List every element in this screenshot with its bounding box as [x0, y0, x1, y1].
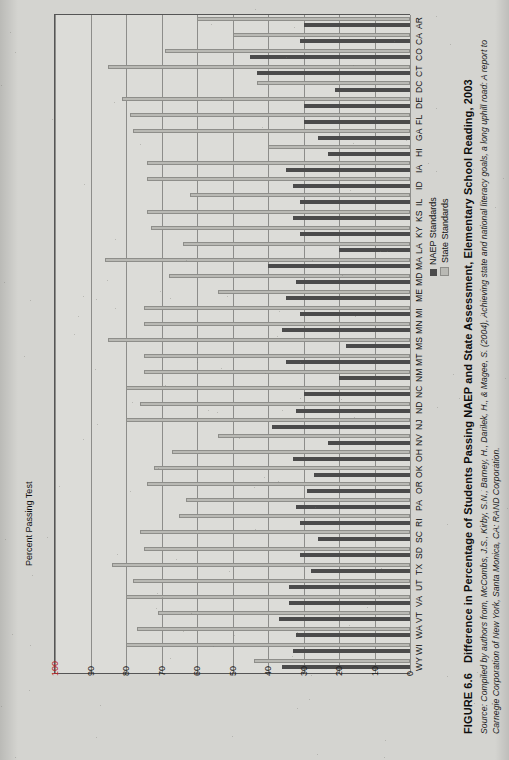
chart-row: [55, 256, 410, 272]
scan-speckle: [183, 631, 184, 632]
category-label: LA: [414, 243, 424, 254]
scan-speckle: [297, 632, 298, 633]
bar-state-standards: [137, 627, 410, 631]
bar-state-standards: [133, 579, 410, 583]
bar-state-standards: [126, 643, 410, 647]
axis-tick-label: 20: [334, 666, 344, 676]
scan-speckle: [255, 529, 256, 530]
chart-row: [55, 31, 410, 47]
scan-speckle: [297, 708, 298, 709]
scan-speckle: [100, 705, 101, 706]
chart-row: [55, 641, 410, 657]
bar-naep-standards: [318, 537, 410, 541]
scan-speckle: [217, 412, 218, 413]
chart-row: [55, 400, 410, 416]
chart-row: [55, 192, 410, 208]
scan-speckle: [59, 486, 60, 487]
scan-speckle: [84, 184, 85, 185]
category-label: GA: [414, 129, 424, 142]
bar-state-standards: [179, 514, 410, 518]
scan-speckle: [294, 27, 295, 28]
scan-speckle: [309, 699, 310, 700]
scan-speckle: [5, 539, 6, 540]
chart-row: [55, 496, 410, 512]
category-label: CT: [414, 65, 424, 77]
scan-speckle: [450, 44, 451, 45]
scan-speckle: [115, 239, 116, 240]
bar-state-standards: [108, 338, 410, 342]
bar-naep-standards: [304, 120, 411, 124]
bar-naep-standards: [286, 168, 410, 172]
chart-area: Percent Passing Test NAEP StandardsState…: [10, 6, 450, 692]
scan-speckle: [107, 280, 108, 281]
bar-state-standards: [126, 418, 410, 422]
legend-entry: NAEP Standards: [428, 197, 438, 276]
scan-speckle: [157, 593, 158, 594]
bar-naep-standards: [250, 55, 410, 59]
scan-speckle: [436, 108, 437, 109]
category-label: WA: [414, 625, 424, 639]
bar-state-standards: [144, 547, 410, 551]
bar-state-standards: [169, 274, 410, 278]
category-label: PA: [414, 499, 424, 510]
category-label: ID: [414, 181, 424, 190]
scan-speckle: [353, 143, 354, 144]
scan-speckle: [208, 410, 209, 411]
scan-speckle: [484, 584, 485, 585]
chart-row: [55, 593, 410, 609]
bar-naep-standards: [300, 232, 410, 236]
figure-caption: FIGURE 6.6Difference in Percentage of St…: [462, 18, 502, 734]
scan-speckle: [191, 613, 192, 614]
chart-row: [55, 545, 410, 561]
bar-naep-standards: [257, 71, 410, 75]
bar-state-standards: [257, 81, 410, 85]
scan-speckle: [465, 568, 466, 569]
category-label: SC: [414, 530, 424, 542]
scan-speckle: [227, 296, 228, 297]
scan-speckle: [381, 568, 382, 569]
bar-state-standards: [140, 530, 410, 534]
category-label: KY: [414, 226, 424, 238]
category-label: MD: [414, 272, 424, 286]
category-label: OK: [414, 466, 424, 479]
bar-naep-standards: [268, 264, 410, 268]
bar-naep-standards: [293, 649, 410, 653]
scan-speckle: [165, 385, 166, 386]
bar-state-standards: [140, 402, 410, 406]
scan-speckle: [132, 402, 133, 403]
scan-speckle: [15, 757, 16, 758]
chart-row: [55, 513, 410, 529]
scan-speckle: [342, 275, 343, 276]
scan-speckle: [158, 468, 159, 469]
scan-speckle: [480, 315, 481, 316]
value-axis-title: Percent Passing Test: [24, 482, 34, 566]
bar-naep-standards: [339, 376, 410, 380]
scan-speckle: [83, 296, 84, 297]
chart-row: [55, 625, 410, 641]
scan-speckle: [1, 706, 2, 707]
bar-state-standards: [154, 466, 410, 470]
scan-speckle: [52, 119, 53, 120]
chart-row: [55, 288, 410, 304]
chart-row: [55, 432, 410, 448]
bar-state-standards: [147, 161, 410, 165]
scan-speckle: [97, 424, 98, 425]
category-label: NM: [414, 368, 424, 382]
scan-speckle: [140, 144, 141, 145]
scan-speckle: [300, 398, 301, 399]
scan-speckle: [311, 675, 312, 676]
scan-speckle: [447, 524, 448, 525]
bar-naep-standards: [304, 23, 411, 27]
chart-row: [55, 79, 410, 95]
bar-state-standards: [197, 17, 410, 21]
bar-naep-standards: [318, 136, 410, 140]
scan-speckle: [447, 676, 448, 677]
category-label: WI: [414, 644, 424, 655]
bar-naep-standards: [286, 296, 410, 300]
scan-speckle: [234, 635, 235, 636]
scan-speckle: [47, 537, 48, 538]
bar-naep-standards: [289, 601, 410, 605]
scan-speckle: [197, 362, 198, 363]
scan-speckle: [254, 487, 255, 488]
scan-speckle: [286, 57, 287, 58]
